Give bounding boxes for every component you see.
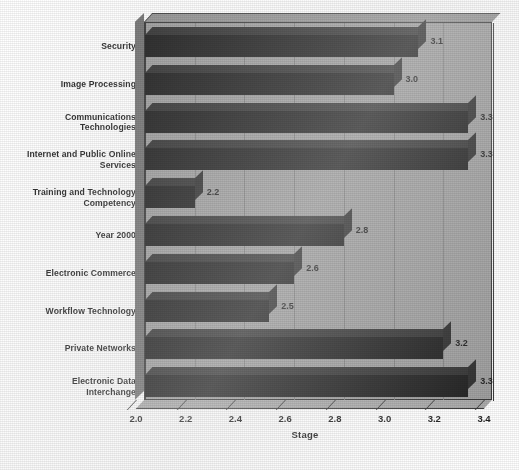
bar bbox=[145, 73, 394, 95]
bar-top-face bbox=[145, 254, 302, 262]
bar-front-face bbox=[145, 375, 468, 397]
value-label: 2.6 bbox=[306, 263, 319, 273]
category-label: Private Networks bbox=[65, 343, 136, 354]
bar-top-face bbox=[145, 178, 202, 186]
plot-left-face bbox=[135, 13, 144, 400]
bar-front-face bbox=[145, 73, 394, 95]
category-label: Workflow Technology bbox=[46, 305, 136, 316]
value-label: 3.3 bbox=[480, 376, 493, 386]
value-label: 2.2 bbox=[207, 187, 220, 197]
bar-front-face bbox=[145, 300, 269, 322]
category-label: Electronic Commerce bbox=[46, 267, 136, 278]
plot-floor bbox=[136, 400, 492, 409]
bar bbox=[145, 186, 195, 208]
bar-end-cap bbox=[344, 208, 352, 238]
x-tick-label: 2.8 bbox=[328, 413, 341, 424]
bar-end-cap bbox=[468, 95, 476, 125]
bar-end-cap bbox=[443, 322, 451, 352]
bar-front-face bbox=[145, 111, 468, 133]
bar-top-face bbox=[145, 292, 277, 300]
bar-top-face bbox=[145, 367, 476, 375]
x-tick-label: 2.2 bbox=[179, 413, 192, 424]
category-label: Year 2000 bbox=[95, 230, 136, 241]
plot-wall bbox=[144, 22, 492, 400]
bar-chart: SecurityImage ProcessingCommunications T… bbox=[0, 0, 519, 470]
bar-top-face bbox=[145, 140, 476, 148]
value-label: 2.8 bbox=[356, 225, 369, 235]
bar-end-cap bbox=[294, 246, 302, 276]
x-tick-label: 2.0 bbox=[129, 413, 142, 424]
plot-area bbox=[144, 22, 492, 400]
bar-end-cap bbox=[468, 133, 476, 163]
bar-top-face bbox=[145, 216, 351, 224]
x-tick-label: 3.4 bbox=[477, 413, 490, 424]
bar bbox=[145, 375, 468, 397]
bar-front-face bbox=[145, 186, 195, 208]
bar bbox=[145, 148, 468, 170]
value-label: 3.3 bbox=[480, 112, 493, 122]
value-label: 3.1 bbox=[430, 36, 443, 46]
bar-end-cap bbox=[418, 19, 426, 49]
value-label: 3.3 bbox=[480, 149, 493, 159]
bar-top-face bbox=[145, 103, 476, 111]
bar bbox=[145, 111, 468, 133]
bar-end-cap bbox=[468, 359, 476, 389]
bar bbox=[145, 35, 418, 57]
category-label: Electronic Data Interchange bbox=[72, 376, 136, 397]
category-label: Internet and Public Online Services bbox=[27, 149, 136, 170]
value-label: 2.5 bbox=[281, 301, 294, 311]
value-label: 3.0 bbox=[406, 74, 419, 84]
bar-front-face bbox=[145, 262, 294, 284]
category-label: Image Processing bbox=[61, 78, 136, 89]
bar bbox=[145, 224, 344, 246]
x-axis-title: Stage bbox=[292, 429, 319, 440]
x-tick-label: 2.6 bbox=[279, 413, 292, 424]
x-tick-label: 3.2 bbox=[428, 413, 441, 424]
plot-top-face bbox=[144, 13, 500, 22]
value-label: 3.2 bbox=[455, 338, 468, 348]
bar-end-cap bbox=[269, 284, 277, 314]
bar-top-face bbox=[145, 329, 451, 337]
bar bbox=[145, 262, 294, 284]
x-tick-label: 3.0 bbox=[378, 413, 391, 424]
bar bbox=[145, 300, 269, 322]
bar-top-face bbox=[145, 65, 401, 73]
bar-front-face bbox=[145, 224, 344, 246]
bar-front-face bbox=[145, 148, 468, 170]
category-label: Training and Technology Competency bbox=[33, 187, 136, 208]
bar-front-face bbox=[145, 337, 443, 359]
category-label: Security bbox=[101, 41, 136, 52]
bar-top-face bbox=[145, 27, 426, 35]
bar bbox=[145, 337, 443, 359]
x-tick-label: 2.4 bbox=[229, 413, 242, 424]
category-label: Communications Technologies bbox=[65, 111, 136, 132]
gridline-3.4 bbox=[493, 23, 494, 401]
bar-front-face bbox=[145, 35, 418, 57]
